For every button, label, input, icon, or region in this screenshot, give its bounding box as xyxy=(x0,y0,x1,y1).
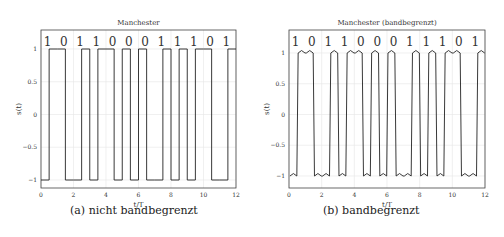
bit-label: 0 xyxy=(373,35,381,49)
x-tick-label: 4 xyxy=(104,191,108,198)
bit-label: 1 xyxy=(92,35,100,49)
x-tick-label: 10 xyxy=(200,191,208,198)
chart-canvas: 02468101210.50−0.5−1Manchestert/Ts(t)101… xyxy=(0,0,504,237)
y-axis-label: s(t) xyxy=(15,103,23,115)
bit-label: 1 xyxy=(439,35,447,49)
x-tick-label: 8 xyxy=(169,191,173,198)
bit-label: 0 xyxy=(109,35,117,49)
y-tick-label: 0.5 xyxy=(275,80,285,87)
x-tick-label: 0 xyxy=(287,191,291,198)
bit-label: 1 xyxy=(76,35,84,49)
bit-label: 1 xyxy=(190,35,198,49)
bit-label: 0 xyxy=(141,35,149,49)
bit-label: 1 xyxy=(324,35,332,49)
y-tick-label: 0 xyxy=(33,111,37,118)
chart-title: Manchester (bandbegrenzt) xyxy=(337,19,437,27)
bit-label: 0 xyxy=(455,35,463,49)
bit-label: 1 xyxy=(174,35,182,49)
bit-label: 0 xyxy=(206,35,214,49)
x-tick-label: 8 xyxy=(418,191,422,198)
y-tick-label: −1 xyxy=(276,172,285,179)
x-tick-label: 6 xyxy=(137,191,141,198)
bit-label: 1 xyxy=(406,35,414,49)
bit-label: 1 xyxy=(292,35,300,49)
x-tick-label: 12 xyxy=(232,191,240,198)
plot-b: 02468101210.50−0.5−1Manchester (bandbegr… xyxy=(263,19,489,209)
signal-line xyxy=(290,51,485,176)
y-tick-label: −1 xyxy=(28,176,37,183)
bit-label: 1 xyxy=(422,35,430,49)
bit-label: 0 xyxy=(60,35,68,49)
y-tick-label: 0.5 xyxy=(27,78,37,85)
chart-title: Manchester xyxy=(117,19,160,27)
x-tick-label: 2 xyxy=(320,191,324,198)
x-tick-label: 10 xyxy=(449,191,457,198)
x-tick-label: 2 xyxy=(72,191,76,198)
x-tick-label: 0 xyxy=(39,191,43,198)
bit-label: 1 xyxy=(157,35,165,49)
y-tick-label: 0 xyxy=(281,111,285,118)
x-tick-label: 4 xyxy=(352,191,356,198)
bit-label: 1 xyxy=(471,35,479,49)
y-tick-label: 1 xyxy=(33,45,37,52)
bit-label: 1 xyxy=(341,35,349,49)
bit-label: 0 xyxy=(308,35,316,49)
bit-label: 0 xyxy=(125,35,133,49)
x-tick-label: 6 xyxy=(385,191,389,198)
y-tick-label: −0.5 xyxy=(22,143,37,150)
plot-a: 02468101210.50−0.5−1Manchestert/Ts(t)101… xyxy=(15,19,240,209)
x-tick-label: 12 xyxy=(481,191,489,198)
bit-label: 0 xyxy=(390,35,398,49)
caption-b: (b) bandbegrenzt xyxy=(323,204,420,217)
y-tick-label: 1 xyxy=(281,49,285,56)
y-tick-label: −0.5 xyxy=(270,141,285,148)
caption-a: (a) nicht bandbegrenzt xyxy=(70,204,198,217)
bit-label: 1 xyxy=(222,35,230,49)
bit-label: 0 xyxy=(357,35,365,49)
bit-label: 1 xyxy=(44,35,52,49)
y-axis-label: s(t) xyxy=(263,103,271,115)
